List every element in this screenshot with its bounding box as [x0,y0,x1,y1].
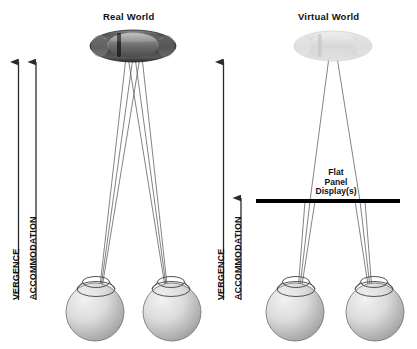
virtual-right-eye [346,277,404,342]
real-world-car [90,30,176,62]
virtual-accommodation-label: ACCOMMODATION [233,216,243,300]
real-right-eye [143,277,201,342]
virtual-world-car [294,31,372,61]
figure-canvas: Real World Virtual World Flat Panel Disp… [0,0,417,349]
fpd-line-3: Display(s) [303,187,369,197]
virtual-left-eye [266,277,324,342]
real-vergence-label: VERGENCE [11,249,21,300]
real-world-panel [19,30,202,341]
virtual-world-title: Virtual World [298,11,359,22]
real-world-title: Real World [103,11,154,22]
virtual-vergence-label: VERGENCE [216,249,226,300]
flat-panel-display-label: Flat Panel Display(s) [303,168,369,197]
real-left-eye [66,277,124,342]
real-accommodation-label: ACCOMMODATION [28,216,38,300]
